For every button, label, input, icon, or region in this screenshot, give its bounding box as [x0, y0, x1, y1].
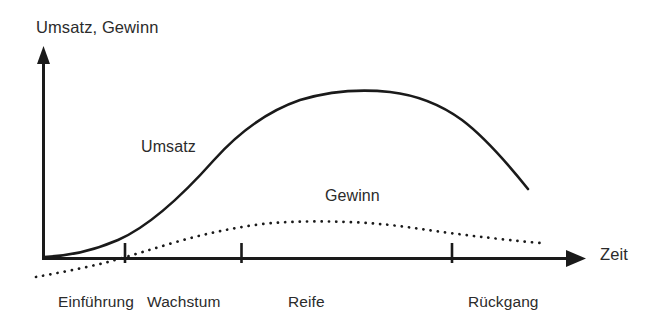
series-label-gewinn: Gewinn	[325, 188, 380, 204]
series-line-gewinn	[36, 221, 540, 277]
y-axis	[37, 46, 50, 258]
y-axis-arrowhead-icon	[37, 46, 50, 64]
x-axis-title: Zeit	[600, 246, 628, 263]
x-axis	[42, 250, 586, 267]
phase-label-rueckgang: Rückgang	[468, 294, 539, 310]
series-label-umsatz: Umsatz	[141, 139, 196, 155]
x-axis-arrowhead-icon	[566, 250, 586, 267]
phase-label-reife: Reife	[288, 294, 325, 310]
y-axis-title: Umsatz, Gewinn	[36, 19, 158, 36]
chart-canvas	[0, 0, 670, 332]
product-lifecycle-chart: Umsatz, Gewinn Zeit Umsatz Gewinn Einfüh…	[0, 0, 670, 332]
series-line-umsatz	[44, 91, 528, 257]
phase-label-einfuehrung: Einführung	[58, 294, 134, 310]
phase-label-wachstum: Wachstum	[147, 294, 220, 310]
